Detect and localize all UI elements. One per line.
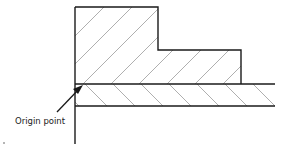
upper-hatch-region xyxy=(27,7,287,84)
arrow-icon xyxy=(57,85,83,112)
lower-hatch-strip xyxy=(57,84,275,106)
diagram-canvas xyxy=(0,0,287,155)
upper-part-outline xyxy=(75,7,241,84)
stray-dot xyxy=(3,142,4,143)
origin-point-label: Origin point xyxy=(15,116,65,126)
